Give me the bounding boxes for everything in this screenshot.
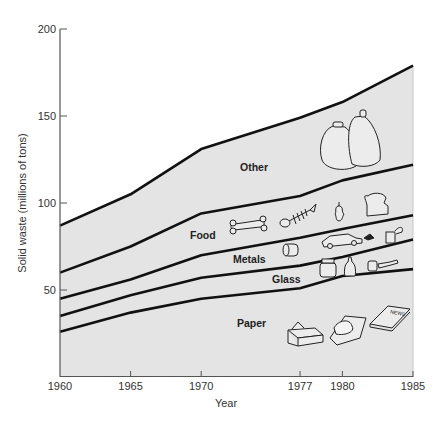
band-label-paper: Paper <box>237 317 266 329</box>
x-tick-label: 1970 <box>189 380 213 392</box>
x-axis-title: Year <box>215 397 238 409</box>
band-label-other: Other <box>240 161 268 173</box>
x-tick-label: 1977 <box>288 380 312 392</box>
y-axis-title: Solid waste (millions of tons) <box>16 133 28 272</box>
y-tick-label: 100 <box>38 197 56 209</box>
bread-slice-icon <box>365 193 388 216</box>
x-tick-label: 1980 <box>330 380 354 392</box>
x-tick-label: 1960 <box>48 380 72 392</box>
y-tick-label: 50 <box>44 284 56 296</box>
band-label-glass: Glass <box>272 273 301 285</box>
tin-can-icon <box>283 244 298 256</box>
stacked-area-chart: 50100150200 196019651970197719801985 Yea… <box>0 0 439 429</box>
jar-icon <box>320 259 336 277</box>
x-tick-label: 1985 <box>401 380 425 392</box>
small-jar-icon <box>368 261 377 271</box>
y-tick-label: 150 <box>38 110 56 122</box>
band-label-metals: Metals <box>233 253 266 265</box>
y-tick-label: 200 <box>38 23 56 35</box>
band-label-food: Food <box>190 229 216 241</box>
x-tick-label: 1965 <box>118 380 142 392</box>
